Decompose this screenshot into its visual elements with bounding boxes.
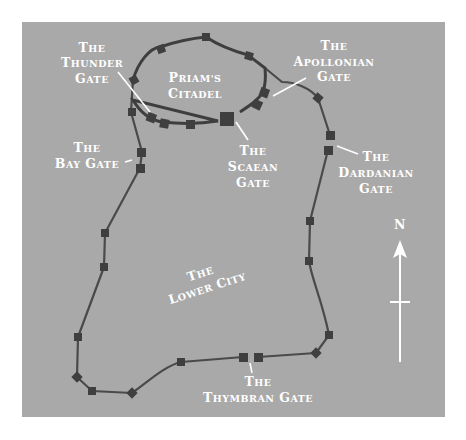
thunder-line2: THUNDER — [61, 55, 123, 70]
gate-label-dardanian: THE DARDANIAN GATE — [338, 149, 413, 196]
thymbran-line2: THYMBRAN GATE — [203, 390, 313, 405]
gate-label-scaean: THE SCAEAN GATE — [228, 143, 278, 190]
gate-label-apollonian: THE APOLLONIAN GATE — [293, 38, 375, 84]
compass-north-label: N — [394, 217, 406, 232]
dardanian-line1: THE — [362, 149, 389, 164]
scaean-line2: SCAEAN — [228, 159, 278, 174]
thunder-line3: GATE — [75, 71, 109, 86]
outer-wall-towers — [71, 92, 335, 398]
apollonian-line3: GATE — [317, 69, 351, 84]
gate-label-thymbran: THE THYMBRAN GATE — [203, 374, 313, 405]
bay-line2: BAY GATE — [55, 156, 119, 171]
bay-line1: THE — [73, 140, 100, 155]
citadel-label-line1: PRIAM'S — [169, 70, 222, 85]
apollonian-line2: APOLLONIAN — [293, 54, 375, 69]
citadel-label-line2: CITADEL — [168, 86, 222, 101]
dardanian-line3: GATE — [359, 181, 393, 196]
dardanian-line2: DARDANIAN — [338, 165, 413, 180]
lower-city-label: THE LOWER CITY — [162, 253, 248, 307]
citadel-label: PRIAM'S CITADEL — [168, 70, 222, 101]
gate-label-bay: THE BAY GATE — [55, 140, 119, 171]
north-arrow-icon: N — [390, 217, 410, 362]
scaean-line1: THE — [239, 143, 266, 158]
thymbran-line1: THE — [244, 374, 271, 389]
gate-label-thunder: THE THUNDER GATE — [61, 40, 123, 86]
troy-map: PRIAM'S CITADEL THE LOWER CITY THE THUND… — [0, 0, 466, 440]
thunder-line1: THE — [78, 40, 105, 55]
scaean-line3: GATE — [236, 175, 270, 190]
apollonian-line1: THE — [320, 38, 347, 53]
